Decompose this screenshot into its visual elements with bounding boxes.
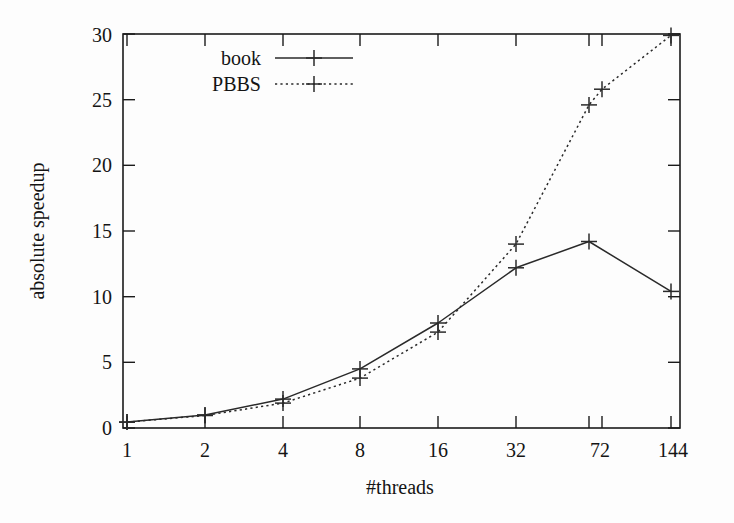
chart-background [0, 0, 734, 523]
x-tick-label: 4 [278, 439, 288, 461]
x-axis-title: #threads [366, 476, 434, 498]
y-axis-title: absolute speedup [26, 162, 49, 299]
chart-figure: 0 5 10 15 20 25 30 1 2 4 8 16 32 72 144 … [0, 0, 734, 523]
y-tick-label: 15 [92, 220, 112, 242]
x-tick-label: 16 [428, 439, 448, 461]
x-tick-label: 144 [658, 439, 688, 461]
legend-label-pbbs: PBBS [212, 73, 261, 95]
y-tick-label: 5 [102, 351, 112, 373]
y-tick-label: 10 [92, 286, 112, 308]
speedup-line-chart: 0 5 10 15 20 25 30 1 2 4 8 16 32 72 144 … [0, 0, 734, 523]
x-tick-label: 8 [355, 439, 365, 461]
x-tick-label: 2 [200, 439, 210, 461]
legend-label-book: book [221, 47, 261, 69]
x-tick-label: 72 [590, 439, 610, 461]
y-tick-label: 25 [92, 89, 112, 111]
x-tick-label: 32 [506, 439, 526, 461]
y-tick-label: 20 [92, 154, 112, 176]
y-tick-label: 30 [92, 24, 112, 46]
x-tick-label: 1 [122, 439, 132, 461]
y-tick-label: 0 [102, 417, 112, 439]
